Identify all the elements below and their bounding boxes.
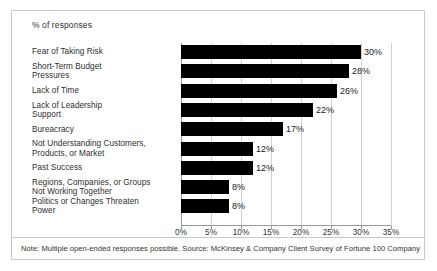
category-label-line: Lack of Time <box>32 86 180 95</box>
x-axis-line <box>181 225 391 226</box>
bar-row: 17% <box>181 122 391 136</box>
bar <box>181 161 253 175</box>
bar <box>181 199 229 213</box>
category-label: Lack of Time <box>32 86 180 95</box>
category-label-line: Short-Term Budget <box>32 62 180 71</box>
chart-figure: % of responses Fear of Taking RiskShort-… <box>11 10 425 260</box>
category-label: Short-Term BudgetPressures <box>32 62 180 81</box>
bar-row: 26% <box>181 84 391 98</box>
bar-value-label: 30% <box>361 45 382 59</box>
source-note: Note: Multiple open-ended responses poss… <box>21 244 420 253</box>
category-label-line: Lack of Leadership <box>32 101 180 110</box>
bar-row: 30% <box>181 45 391 59</box>
bar-value-label: 8% <box>229 180 245 194</box>
x-tick-label: 20% <box>293 228 309 237</box>
bar-value-label: 26% <box>337 84 358 98</box>
plot-area: 30%28%26%22%17%12%12%8%8% <box>181 43 391 226</box>
x-tick-label: 5% <box>205 228 217 237</box>
category-label-line: Not Understanding Customers, <box>32 139 180 148</box>
bar <box>181 103 313 117</box>
note-divider <box>12 237 424 238</box>
category-label: Regions, Companies, or GroupsNot Working… <box>32 178 180 197</box>
bar-value-label: 28% <box>349 64 370 78</box>
x-tick-label: 0% <box>175 228 187 237</box>
category-label-line: Not Working Together <box>32 187 180 196</box>
category-label-line: Support <box>32 110 180 119</box>
bar-row: 8% <box>181 199 391 213</box>
category-label-line: Politics or Changes Threaten <box>32 197 180 206</box>
bar-row: 8% <box>181 180 391 194</box>
category-axis-labels: Fear of Taking RiskShort-Term BudgetPres… <box>32 43 180 226</box>
x-tick-label: 35% <box>383 228 399 237</box>
category-label-line: Fear of Taking Risk <box>32 47 180 56</box>
gridline-35% <box>391 43 392 226</box>
bar <box>181 180 229 194</box>
x-tick-label: 15% <box>263 228 279 237</box>
x-tick-label: 30% <box>353 228 369 237</box>
category-label: Politics or Changes ThreatenPower <box>32 197 180 216</box>
x-axis-tick-labels: 0%5%10%15%20%25%30%35% <box>181 228 391 242</box>
chart-title: % of responses <box>32 20 92 30</box>
x-tick-label: 10% <box>233 228 249 237</box>
category-label-line: Power <box>32 206 180 215</box>
bar-value-label: 12% <box>253 161 274 175</box>
bar-value-label: 12% <box>253 142 274 156</box>
category-label: Bureacracy <box>32 125 180 134</box>
category-label-line: Regions, Companies, or Groups <box>32 178 180 187</box>
bar-value-label: 17% <box>283 122 304 136</box>
category-label: Fear of Taking Risk <box>32 47 180 56</box>
bar <box>181 142 253 156</box>
bar-row: 28% <box>181 64 391 78</box>
category-label-line: Pressures <box>32 71 180 80</box>
bar-row: 22% <box>181 103 391 117</box>
bar <box>181 122 283 136</box>
category-label: Past Success <box>32 163 180 172</box>
bar <box>181 84 337 98</box>
bar-row: 12% <box>181 161 391 175</box>
category-label: Lack of LeadershipSupport <box>32 101 180 120</box>
category-label-line: Products, or Market <box>32 149 180 158</box>
category-label-line: Bureacracy <box>32 125 180 134</box>
bar-value-label: 22% <box>313 103 334 117</box>
bar <box>181 64 349 78</box>
bar-row: 12% <box>181 142 391 156</box>
category-label-line: Past Success <box>32 163 180 172</box>
bar-value-label: 8% <box>229 199 245 213</box>
bar <box>181 45 361 59</box>
x-tick-label: 25% <box>323 228 339 237</box>
category-label: Not Understanding Customers,Products, or… <box>32 139 180 158</box>
